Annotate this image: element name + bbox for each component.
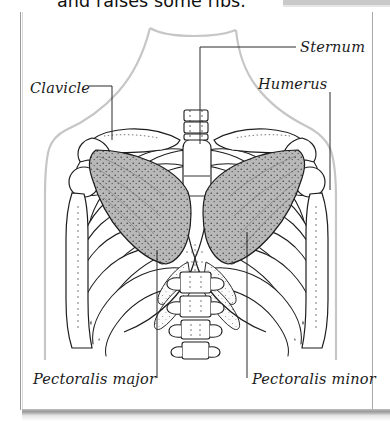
- trachea: [184, 110, 208, 140]
- label-pectoralis-major: Pectoralis major: [33, 371, 156, 387]
- page-bottom-shadow-fade: [22, 415, 390, 421]
- label-clavicle: Clavicle: [30, 80, 90, 96]
- label-sternum: Sternum: [300, 39, 365, 55]
- label-pectoralis-minor: Pectoralis minor: [252, 371, 376, 387]
- label-humerus: Humerus: [258, 76, 327, 92]
- anatomy-illustration: [0, 0, 390, 421]
- figure-page: and raises some ribs.: [0, 0, 390, 421]
